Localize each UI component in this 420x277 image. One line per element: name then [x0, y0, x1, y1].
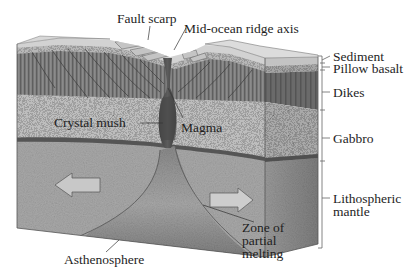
label-lithospheric-mantle-line2: mantle [333, 205, 370, 218]
label-mid-ocean-ridge-axis: Mid-ocean ridge axis [184, 22, 299, 35]
label-pillow-basalt: Pillow basalt [333, 62, 403, 75]
label-dikes: Dikes [333, 86, 365, 99]
label-gabbro: Gabbro [333, 132, 374, 145]
front-face [0, 37, 270, 270]
label-fault-scarp: Fault scarp [117, 12, 177, 25]
layer-bracket [318, 56, 330, 248]
label-zone-line3: melting [242, 247, 283, 260]
label-crystal-mush: Crystal mush [54, 116, 126, 129]
crystal-mush-zone [159, 96, 177, 140]
label-asthenosphere: Asthenosphere [64, 253, 144, 266]
label-magma: Magma [181, 121, 222, 134]
side-gabbro [265, 102, 318, 162]
